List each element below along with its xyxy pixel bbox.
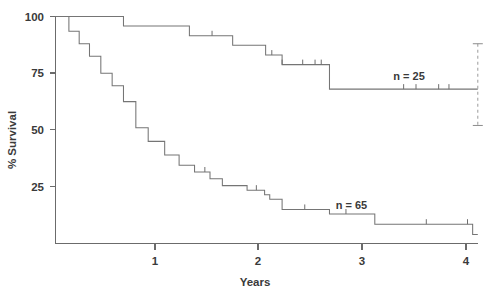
x-tick-label-1: 1 <box>152 255 159 267</box>
axis-lines <box>56 17 479 244</box>
series-label-lower: n = 65 <box>336 199 368 211</box>
y-axis-tick-labels: 100 75 50 25 <box>25 11 45 193</box>
chart-canvas: 100 75 50 25 1 2 3 4 Years % Survival n … <box>0 0 491 293</box>
y-tick-label-100: 100 <box>25 11 44 23</box>
x-axis-tick-labels: 1 2 3 4 <box>152 255 470 267</box>
survival-chart-figure: 100 75 50 25 1 2 3 4 Years % Survival n … <box>0 0 491 293</box>
survival-curves-layer <box>56 17 483 235</box>
x-tick-label-2: 2 <box>255 255 261 267</box>
x-tick-label-4: 4 <box>463 255 470 267</box>
y-axis-title: % Survival <box>6 111 18 169</box>
survival-curve-lower <box>56 17 478 235</box>
x-tick-label-3: 3 <box>359 255 365 267</box>
y-tick-label-75: 75 <box>31 67 44 79</box>
series-label-upper: n = 25 <box>393 70 425 82</box>
y-axis-ticks <box>50 17 56 187</box>
curve-line <box>56 17 478 235</box>
y-tick-label-50: 50 <box>31 124 44 136</box>
x-axis-ticks <box>155 244 466 250</box>
x-axis-title: Years <box>240 276 271 288</box>
y-tick-label-25: 25 <box>31 181 44 193</box>
